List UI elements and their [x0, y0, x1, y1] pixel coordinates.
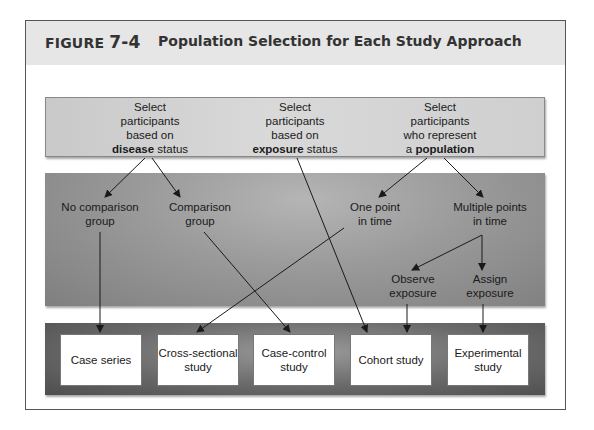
- study-label: study: [158, 360, 237, 374]
- node-disease-status: Select participants based on disease sta…: [95, 100, 205, 156]
- node-line: Assign: [455, 272, 525, 286]
- node-line: exposure: [378, 286, 448, 300]
- node-assign-exposure: Assign exposure: [455, 272, 525, 300]
- figure-label-prefix: FIGURE: [45, 35, 109, 51]
- node-exposure-status: Select participants based on exposure st…: [240, 100, 350, 156]
- node-line: in time: [440, 214, 540, 228]
- node-line-pre: a: [406, 143, 416, 155]
- node-multiple-points-in-time: Multiple points in time: [440, 200, 540, 228]
- emphasis: disease: [112, 143, 154, 155]
- figure-label: FIGURE 7-4: [45, 32, 141, 52]
- figure-number: 7-4: [109, 32, 140, 52]
- node-population: Select participants who represent a popu…: [385, 100, 495, 156]
- node-line: based on: [240, 128, 350, 142]
- node-line: based on: [95, 128, 205, 142]
- figure-title: Population Selection for Each Study Appr…: [158, 33, 522, 49]
- node-no-comparison-group: No comparison group: [55, 200, 145, 228]
- node-line: Select: [95, 100, 205, 114]
- study-label: Cohort study: [358, 353, 423, 367]
- study-label: Case-control: [261, 346, 326, 360]
- study-experimental: Experimentalstudy: [447, 334, 529, 386]
- node-line-rest: status: [154, 143, 188, 155]
- emphasis: exposure: [252, 143, 303, 155]
- figure-header: FIGURE 7-4 Population Selection for Each…: [26, 21, 565, 65]
- study-cohort: Cohort study: [350, 334, 432, 386]
- study-label: Experimental: [454, 346, 521, 360]
- node-line: group: [160, 214, 240, 228]
- node-line: One point: [340, 200, 410, 214]
- node-one-point-in-time: One point in time: [340, 200, 410, 228]
- node-line: a population: [385, 142, 495, 156]
- node-line: Select: [385, 100, 495, 114]
- node-line: No comparison: [55, 200, 145, 214]
- node-line: disease status: [95, 142, 205, 156]
- node-line: Multiple points: [440, 200, 540, 214]
- node-line: participants: [240, 114, 350, 128]
- study-label: study: [261, 360, 326, 374]
- study-label: Cross-sectional: [158, 346, 237, 360]
- node-line: participants: [95, 114, 205, 128]
- study-cross-sectional: Cross-sectionalstudy: [157, 334, 239, 386]
- node-line: group: [55, 214, 145, 228]
- node-line: exposure: [455, 286, 525, 300]
- node-line: who represent: [385, 128, 495, 142]
- node-line: Select: [240, 100, 350, 114]
- node-comparison-group: Comparison group: [160, 200, 240, 228]
- emphasis: population: [415, 143, 474, 155]
- study-case-control: Case-controlstudy: [253, 334, 335, 386]
- study-label: study: [454, 360, 521, 374]
- node-line: Observe: [378, 272, 448, 286]
- study-label: Case series: [71, 353, 132, 367]
- node-line: exposure status: [240, 142, 350, 156]
- node-line: Comparison: [160, 200, 240, 214]
- study-case-series: Case series: [60, 334, 142, 386]
- node-line: participants: [385, 114, 495, 128]
- node-line-rest: status: [304, 143, 338, 155]
- node-line: in time: [340, 214, 410, 228]
- node-observe-exposure: Observe exposure: [378, 272, 448, 300]
